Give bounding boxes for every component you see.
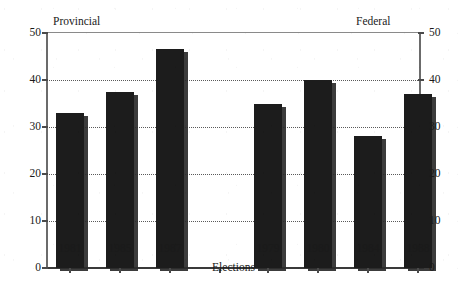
plot-top-border xyxy=(47,32,420,33)
bar-1987 xyxy=(156,49,184,268)
y-axis-left-label-50: 50 xyxy=(17,27,41,39)
federal-axis-label: Federal xyxy=(356,16,390,28)
y-tick-left-40 xyxy=(42,79,48,80)
y-axis-left-line xyxy=(46,33,48,268)
y-tick-right-40 xyxy=(418,79,424,80)
y-tick-left-30 xyxy=(42,126,48,127)
y-tick-right-50 xyxy=(418,32,424,33)
y-axis-right-label-40: 40 xyxy=(429,74,441,86)
bar-body-1980 xyxy=(304,80,332,268)
x-axis-label-1988: 1988 xyxy=(394,243,442,255)
x-axis-label-1981: 1981 xyxy=(46,243,94,255)
x-axis-label-1985: 1985 xyxy=(96,243,144,255)
y-tick-left-10 xyxy=(42,220,48,221)
y-tick-left-20 xyxy=(42,173,48,174)
plot-area xyxy=(47,33,420,268)
y-axis-right-label-20: 20 xyxy=(429,168,441,180)
y-tick-left-50 xyxy=(42,32,48,33)
provincial-axis-label: Provincial xyxy=(53,16,100,28)
x-axis-label-1984: 1984 xyxy=(344,243,392,255)
gridline-40 xyxy=(47,80,420,81)
x-axis-label-1980: 1980 xyxy=(294,243,342,255)
y-axis-left-label-40: 40 xyxy=(17,74,41,86)
bar-1980 xyxy=(304,80,332,268)
y-axis-right-label-10: 10 xyxy=(429,215,441,227)
x-axis-label-1987: 1987 xyxy=(146,243,194,255)
bar-body-1987 xyxy=(156,49,184,268)
gridline-30 xyxy=(47,127,420,128)
y-axis-left-label-10: 10 xyxy=(17,215,41,227)
x-axis-label-1979: 1979 xyxy=(244,243,292,255)
y-axis-left-label-30: 30 xyxy=(17,121,41,133)
y-axis-right-label-30: 30 xyxy=(429,121,441,133)
y-axis-right-label-50: 50 xyxy=(429,27,441,39)
x-axis-title: Elections xyxy=(0,262,467,274)
y-axis-left-label-20: 20 xyxy=(17,168,41,180)
chart-page: Provincial Federal 50403020100 504030201… xyxy=(0,0,467,293)
